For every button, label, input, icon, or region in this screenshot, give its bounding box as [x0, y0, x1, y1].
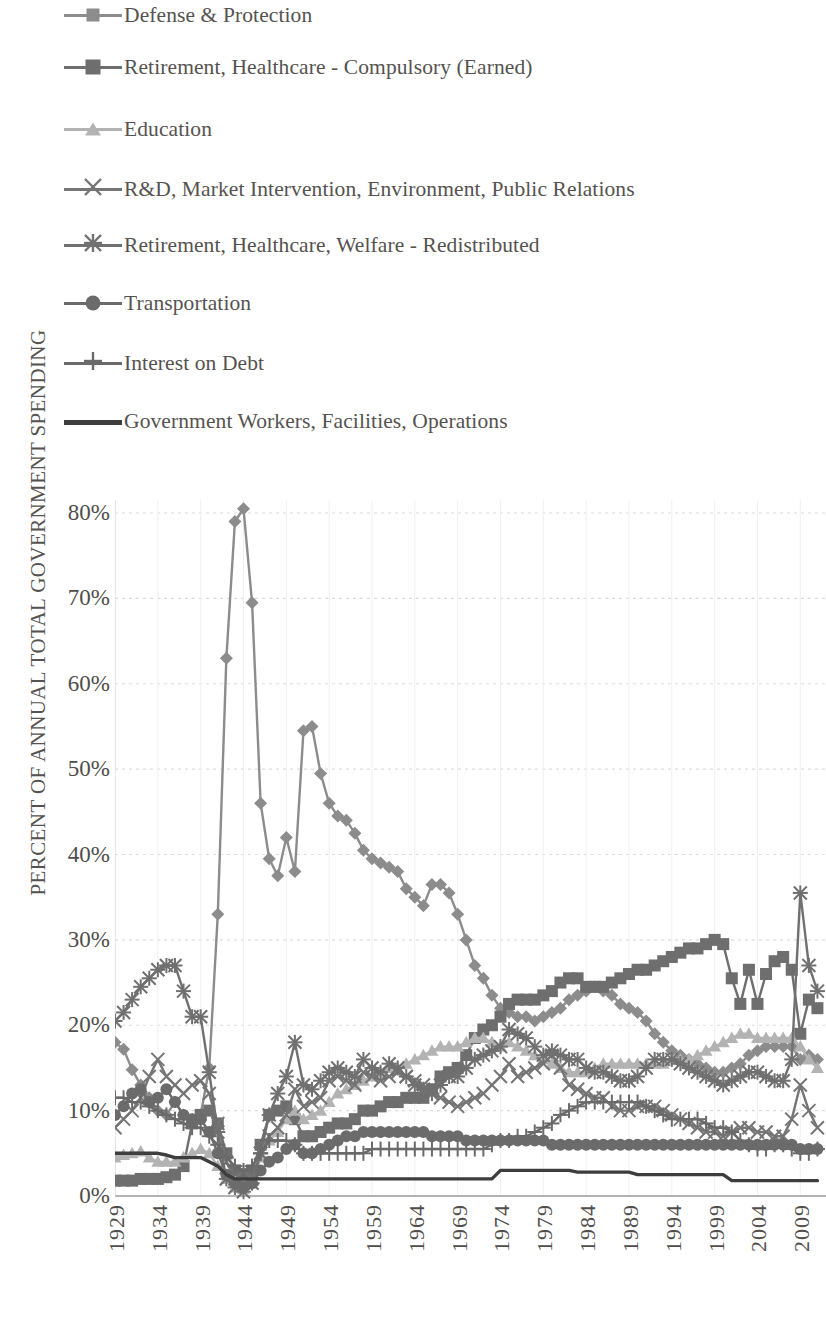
legend-item[interactable]: Education: [64, 114, 212, 144]
legend-marker-cross-icon: [64, 176, 122, 202]
x-axis-tick: 1949: [275, 1204, 301, 1252]
y-axis-tick: 80%: [20, 500, 110, 526]
legend-item[interactable]: Defense & Protection: [64, 0, 312, 30]
legend-item-label: Transportation: [122, 291, 251, 316]
legend-marker-circle-icon: [64, 290, 122, 316]
y-axis-tick: 70%: [20, 585, 110, 611]
x-axis-tick: 1969: [447, 1204, 473, 1252]
legend-item[interactable]: Retirement, Healthcare, Welfare - Redist…: [64, 230, 540, 260]
y-axis-tick: 0%: [20, 1183, 110, 1209]
legend-item[interactable]: Government Workers, Facilities, Operatio…: [64, 406, 508, 436]
legend-marker-diamond-icon: [64, 2, 122, 28]
x-axis-tick: 1979: [532, 1204, 558, 1252]
x-axis-tick: 2009: [789, 1204, 815, 1252]
legend-item-label: Retirement, Healthcare - Compulsory (Ear…: [122, 55, 533, 80]
x-axis-tick: 1999: [704, 1204, 730, 1252]
y-axis-tick: 10%: [20, 1098, 110, 1124]
legend-marker-none-icon: [64, 408, 122, 434]
x-axis-tick-labels: 1929193419391944194919541959196419691974…: [115, 1204, 826, 1322]
y-axis-tick: 40%: [20, 842, 110, 868]
y-axis-tick: 30%: [20, 927, 110, 953]
y-axis-tick: 50%: [20, 756, 110, 782]
legend-item-label: Retirement, Healthcare, Welfare - Redist…: [122, 233, 540, 258]
x-axis-tick: 1934: [147, 1204, 173, 1252]
legend-item-label: R&D, Market Intervention, Environment, P…: [122, 176, 824, 202]
x-axis-tick: 1939: [190, 1204, 216, 1252]
x-axis-tick: 1964: [404, 1204, 430, 1252]
x-axis-tick: 1974: [489, 1204, 515, 1252]
chart-legend: Defense & ProtectionRetirement, Healthca…: [64, 0, 826, 462]
plot-area: [115, 500, 826, 1200]
vertical-gridlines: [115, 500, 800, 1196]
legend-marker-plus-icon: [64, 350, 122, 376]
y-axis-tick-labels: 0%10%20%30%40%50%60%70%80%: [10, 500, 110, 1200]
legend-marker-triangle-icon: [64, 116, 122, 142]
plot-svg: [115, 500, 826, 1200]
y-axis-tick: 60%: [20, 671, 110, 697]
legend-marker-star-icon: [64, 232, 122, 258]
x-axis-tick: 2004: [746, 1204, 772, 1252]
legend-item-label: Government Workers, Facilities, Operatio…: [122, 409, 508, 434]
legend-item-label: Interest on Debt: [122, 351, 264, 376]
chart-figure: Defense & ProtectionRetirement, Healthca…: [0, 0, 826, 1324]
y-axis-tick: 20%: [20, 1012, 110, 1038]
x-axis-tick: 1954: [318, 1204, 344, 1252]
x-axis-tick: 1984: [575, 1204, 601, 1252]
x-axis-tick: 1959: [361, 1204, 387, 1252]
legend-item[interactable]: Interest on Debt: [64, 348, 264, 378]
legend-item[interactable]: R&D, Market Intervention, Environment, P…: [64, 174, 824, 204]
legend-marker-square-icon: [64, 54, 122, 80]
x-axis-tick: 1929: [104, 1204, 130, 1252]
x-axis-tick: 1944: [232, 1204, 258, 1252]
legend-item-label: Education: [122, 117, 212, 142]
x-axis-tick: 1994: [661, 1204, 687, 1252]
legend-item[interactable]: Retirement, Healthcare - Compulsory (Ear…: [64, 52, 533, 82]
legend-item-label: Defense & Protection: [122, 3, 312, 28]
legend-item[interactable]: Transportation: [64, 288, 251, 318]
x-axis-tick: 1989: [618, 1204, 644, 1252]
